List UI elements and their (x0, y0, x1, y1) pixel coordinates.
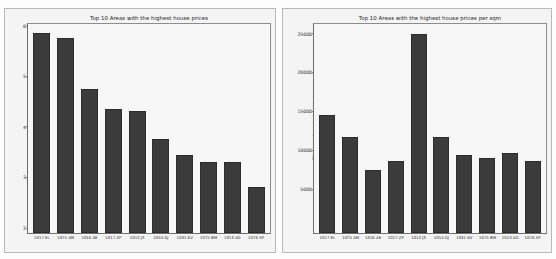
house-prices-per-sqm-figure: House prices per sqm Top 10 Areas with t… (282, 8, 552, 253)
bar (319, 115, 335, 233)
bar (248, 187, 265, 233)
y-tick-label: 6 (23, 23, 26, 28)
x-tick-label: 1012 JS (411, 233, 427, 240)
bar (152, 139, 169, 233)
x-tick-label: 1076 XP (248, 233, 265, 240)
x-tick-label: 1031 KV (176, 233, 193, 240)
x-tick-label: 1076 XP (525, 233, 541, 240)
bar (502, 153, 518, 233)
x-tick-label: 1017 EL (33, 233, 50, 240)
y-tick-label: 15000 (297, 109, 312, 114)
figure-canvas: House prices in millions Top 10 Areas wi… (0, 0, 556, 259)
bar (33, 33, 50, 233)
bar-series-left (28, 24, 270, 233)
x-tick-label: 1031 KV (456, 233, 472, 240)
y-tick-label: 25000 (297, 31, 312, 36)
bar (365, 170, 381, 233)
bar (200, 162, 217, 233)
x-axis-ticks-right: 1017 EL1075 AM1016 AE1017 ZP1012 JS1054 … (314, 233, 546, 240)
x-tick-label: 1016 AE (365, 233, 381, 240)
x-tick-label: 1054 GJ (433, 233, 449, 240)
x-tick-label: 1017 EL (319, 233, 335, 240)
y-tick-label: 4 (23, 124, 26, 129)
x-axis-ticks-left: 1017 EL1075 AM1016 AE1017 ZP1012 JS1054 … (28, 233, 270, 240)
x-tick-label: 1075 AM (57, 233, 74, 240)
x-tick-label: 1054 GJ (152, 233, 169, 240)
bar (176, 155, 193, 233)
x-tick-label: 1017 ZP (105, 233, 122, 240)
y-tick-label: 3 (23, 175, 26, 180)
house-prices-total-figure: House prices in millions Top 10 Areas wi… (4, 8, 276, 253)
y-tick-label: 20000 (297, 70, 312, 75)
y-tick-label: 5 (23, 74, 26, 79)
bar (57, 38, 74, 233)
plot-area-right: Top 10 Areas with the highest house pric… (313, 23, 547, 234)
x-tick-label: 1075 AM (342, 233, 358, 240)
bar (105, 109, 122, 233)
chart-title-right: Top 10 Areas with the highest house pric… (314, 15, 546, 21)
bar (129, 111, 146, 233)
chart-title-left: Top 10 Areas with the highest house pric… (28, 15, 270, 21)
y-tick-label: 5000 (300, 187, 312, 192)
bar (479, 158, 495, 233)
x-tick-label: 1013 AG (224, 233, 241, 240)
y-tick-label: 2 (23, 226, 26, 231)
bar (388, 161, 404, 233)
bar (456, 155, 472, 233)
plot-area-left: Top 10 Areas with the highest house pric… (27, 23, 271, 234)
x-tick-label: 1013 AG (502, 233, 518, 240)
bar (224, 162, 241, 233)
y-tick-label: 10000 (297, 148, 312, 153)
x-tick-label: 1012 JS (129, 233, 146, 240)
x-tick-label: 1016 AE (81, 233, 98, 240)
bar (342, 137, 358, 233)
bar (525, 161, 541, 233)
x-tick-label: 1017 ZP (388, 233, 404, 240)
bar (81, 89, 98, 233)
x-tick-label: 1075 BM (200, 233, 217, 240)
bar (411, 34, 427, 233)
bar (433, 137, 449, 233)
x-tick-label: 1075 BM (479, 233, 495, 240)
bar-series-right (314, 24, 546, 233)
